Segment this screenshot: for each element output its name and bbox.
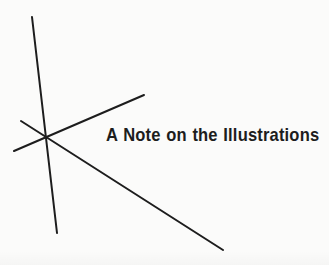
- illustration-line-1: [32, 17, 57, 233]
- book-page: A Note on the Illustrations: [0, 0, 329, 265]
- section-title: A Note on the Illustrations: [106, 125, 319, 144]
